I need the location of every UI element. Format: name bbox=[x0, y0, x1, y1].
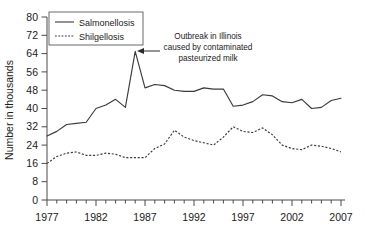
y-tick-label: 0 bbox=[32, 194, 38, 206]
y-axis-title: Number in thousands bbox=[3, 60, 15, 160]
y-tick-label: 16 bbox=[26, 157, 38, 169]
x-tick-label: 2002 bbox=[280, 211, 304, 223]
y-tick-label: 48 bbox=[26, 84, 38, 96]
x-tick-label: 1997 bbox=[231, 211, 255, 223]
y-tick-label: 64 bbox=[26, 47, 38, 59]
y-tick-label: 40 bbox=[26, 102, 38, 114]
chart-container: Number in thousands 08162432404856647280… bbox=[0, 0, 365, 240]
y-tick-label: 80 bbox=[26, 11, 38, 23]
y-tick-label: 8 bbox=[32, 175, 38, 187]
x-tick-label: 2007 bbox=[329, 211, 353, 223]
chart-legend: Salmonellosis Shilgellosis bbox=[49, 12, 143, 45]
line-chart: Number in thousands 08162432404856647280… bbox=[0, 0, 365, 240]
legend-label-shilgellosis: Shilgellosis bbox=[79, 32, 125, 42]
x-tick-label: 1977 bbox=[35, 211, 59, 223]
y-tick-label: 56 bbox=[26, 66, 38, 78]
annotation-line-2: caused by contaminated bbox=[164, 43, 253, 52]
y-tick-label: 32 bbox=[26, 120, 38, 132]
x-tick-label: 1987 bbox=[133, 211, 157, 223]
annotation-line-1: Outbreak in Illinois bbox=[174, 32, 241, 41]
annotation-line-3: pasteurized milk bbox=[178, 54, 238, 63]
y-tick-label: 24 bbox=[26, 139, 38, 151]
x-tick-label: 1982 bbox=[84, 211, 108, 223]
legend-label-salmonellosis: Salmonellosis bbox=[79, 18, 135, 28]
y-tick-label: 72 bbox=[26, 29, 38, 41]
x-tick-label: 1992 bbox=[182, 211, 206, 223]
